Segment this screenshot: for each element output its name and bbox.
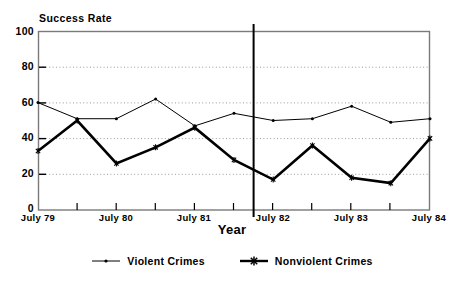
data-point-violent-7	[311, 117, 314, 120]
dot-marker-icon	[91, 255, 121, 267]
data-point-violent-10	[429, 117, 432, 120]
data-point-violent-8	[350, 105, 353, 108]
success-rate-line-chart: Success Rate 100 80 60 40 20 0	[0, 0, 464, 293]
data-point-violent-0	[37, 101, 40, 104]
data-point-violent-6	[272, 119, 275, 122]
x-axis-ticks	[77, 203, 390, 210]
star-marker-icon	[239, 255, 269, 267]
legend-entry-nonviolent-crimes: Nonviolent Crimes	[239, 255, 373, 267]
plot-area	[0, 0, 464, 293]
plot-frame	[39, 32, 430, 211]
data-point-violent-9	[389, 121, 392, 124]
legend-label-violent-crimes: Violent Crimes	[127, 255, 205, 267]
legend-entry-violent-crimes: Violent Crimes	[91, 255, 205, 267]
series-line-nonviolent-crimes	[38, 121, 430, 184]
series-markers-nonviolent-crimes	[36, 118, 432, 187]
chart-legend: Violent Crimes Nonviolent Crimes	[0, 255, 464, 267]
data-point-violent-5	[233, 112, 236, 115]
y-axis-ticks	[39, 67, 46, 174]
data-point-violent-3	[154, 98, 157, 101]
plot-frame-rect	[39, 32, 430, 211]
x-axis-title: Year	[0, 222, 464, 237]
series-markers-violent-crimes	[37, 98, 432, 128]
legend-label-nonviolent-crimes: Nonviolent Crimes	[275, 255, 373, 267]
data-point-violent-2	[115, 117, 118, 120]
